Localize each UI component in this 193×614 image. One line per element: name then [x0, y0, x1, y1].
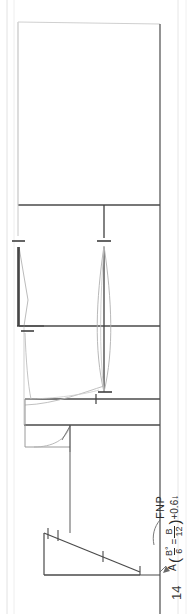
formula-frac1-denominator: 6	[174, 548, 184, 555]
formula-frac1-numerator: B°	[165, 545, 174, 557]
page-number: 14	[169, 586, 184, 600]
left-reference-line	[18, 22, 24, 425]
formula-annotation: ( B° 6 = B 12 ) +0.6 ↓	[165, 495, 184, 563]
formula-equals: =	[169, 539, 180, 545]
formula-open-paren: (	[167, 558, 182, 563]
down-arrow-icon: ↓	[169, 495, 180, 500]
footing-haunch	[25, 425, 70, 533]
point-a-label: A	[167, 564, 178, 571]
formula-frac2-numerator: B	[165, 528, 174, 536]
formula-fraction-2: B 12	[165, 526, 184, 538]
lower-curve-envelope	[25, 333, 104, 405]
formula-close-paren: )	[167, 520, 182, 525]
dimension-tick-marks	[12, 241, 112, 562]
drawing-panel-frame	[18, 22, 160, 614]
formula-plus-term: +0.6	[169, 500, 180, 520]
formula-frac2-denominator: 12	[174, 526, 184, 538]
drawing-page: FNP A ( B° 6 = B 12 ) +0.6 ↓ 14	[0, 0, 193, 614]
panel-divider-lines	[17, 205, 160, 575]
left-deflection-envelope	[19, 247, 44, 326]
sheet-border	[7, 0, 186, 614]
formula-fraction-1: B° 6	[165, 545, 184, 557]
